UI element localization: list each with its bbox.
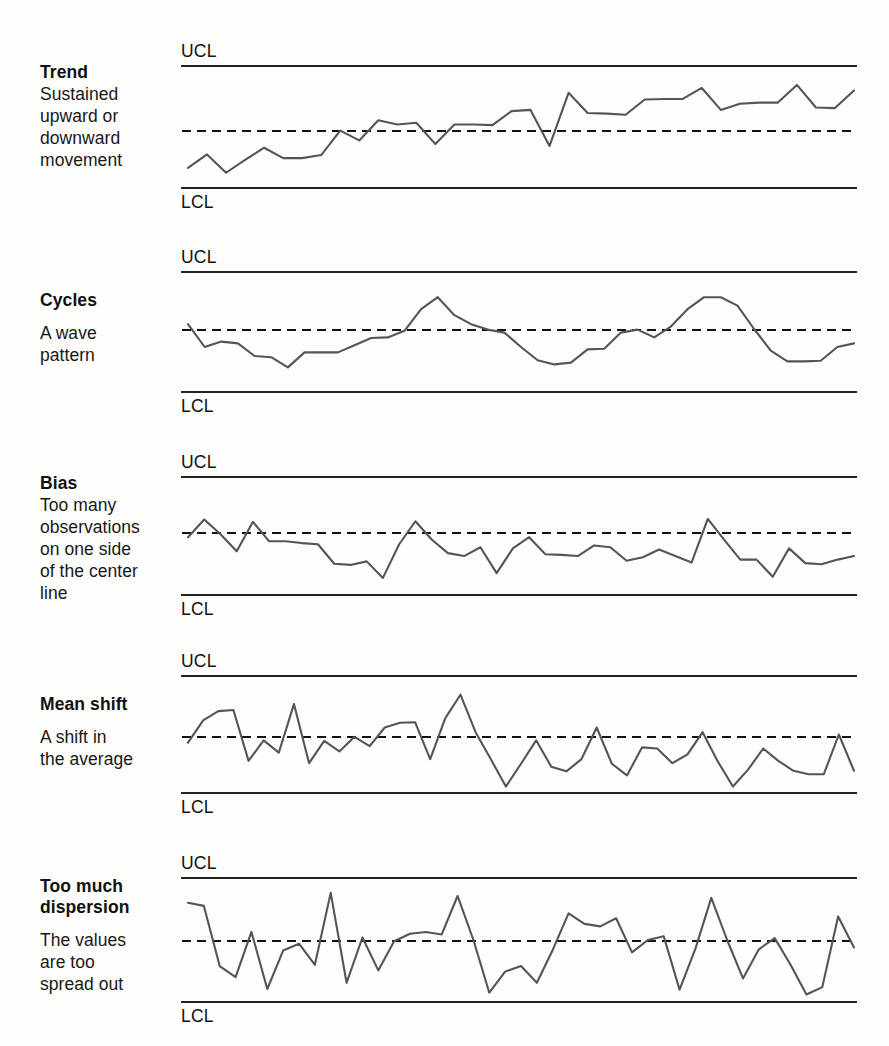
panel-description-trend: movement: [40, 149, 180, 171]
panel-description-bias: observations: [40, 516, 180, 538]
panel-title-cycles: Cycles: [40, 290, 180, 311]
panel-description-too-much-dispersion: The values: [40, 929, 180, 951]
panel-title-trend: Trend: [40, 62, 180, 83]
control-chart-svg-too-much-dispersion: [181, 0, 857, 1032]
panel-description-mean-shift: A shift in: [40, 726, 180, 748]
panel-description-mean-shift: the average: [40, 748, 180, 770]
panel-description-too-much-dispersion: are too: [40, 951, 180, 973]
panel-description-bias: of the center: [40, 560, 180, 582]
panel-description-cycles: A wave: [40, 322, 180, 344]
panel-description-bias: Too many: [40, 494, 180, 516]
panel-description-trend: Sustained: [40, 83, 180, 105]
panel-label-too-much-dispersion: Too muchdispersionThe valuesare toosprea…: [40, 876, 180, 995]
panel-description-bias: on one side: [40, 538, 180, 560]
panel-description-trend: upward or: [40, 105, 180, 127]
panel-title-mean-shift: Mean shift: [40, 694, 180, 715]
panel-description-too-much-dispersion: spread out: [40, 973, 180, 995]
panel-title-too-much-dispersion: Too much: [40, 876, 180, 897]
panel-label-cycles: CyclesA wavepattern: [40, 290, 180, 366]
panel-description-trend: downward: [40, 127, 180, 149]
panel-title-bias: Bias: [40, 473, 180, 494]
label-spacer: [40, 311, 180, 322]
data-series-line: [188, 893, 854, 995]
control-chart-patterns-figure: TrendSustainedupward ordownwardmovementU…: [0, 0, 889, 1046]
panel-description-cycles: pattern: [40, 344, 180, 366]
panel-label-trend: TrendSustainedupward ordownwardmovement: [40, 62, 180, 171]
label-spacer: [40, 715, 180, 726]
panel-title-too-much-dispersion: dispersion: [40, 897, 180, 918]
label-spacer: [40, 918, 180, 929]
panel-description-bias: line: [40, 582, 180, 604]
panel-label-bias: BiasToo manyobservationson one sideof th…: [40, 473, 180, 604]
panel-label-mean-shift: Mean shiftA shift inthe average: [40, 694, 180, 770]
